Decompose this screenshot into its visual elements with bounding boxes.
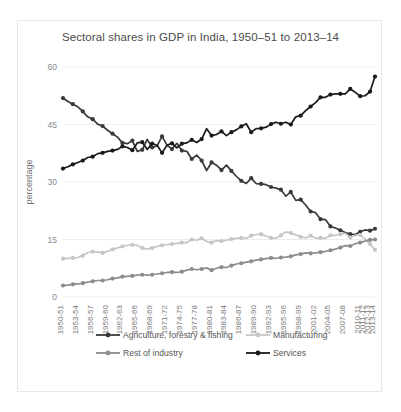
data-point	[140, 246, 144, 250]
data-point	[200, 158, 204, 162]
data-point	[61, 166, 65, 170]
y-tick-label: 60	[48, 62, 58, 72]
legend-swatch-dot	[106, 333, 111, 338]
data-point	[358, 94, 362, 98]
legend-swatch-dot	[256, 351, 261, 356]
data-point	[101, 151, 105, 155]
x-tick-label: 2007-08	[338, 304, 347, 334]
y-axis-title: percentage	[24, 159, 34, 204]
series-2	[61, 237, 377, 287]
legend-swatch-dot	[106, 351, 111, 356]
x-tick-label: 1959-60	[101, 304, 110, 334]
data-point	[81, 158, 85, 162]
data-point	[309, 209, 313, 213]
data-point	[299, 114, 303, 118]
data-point	[348, 87, 352, 91]
data-point	[71, 282, 75, 286]
data-point	[229, 263, 233, 267]
data-point	[219, 265, 223, 269]
data-point	[289, 254, 293, 258]
data-point	[209, 240, 213, 244]
data-point	[249, 234, 253, 238]
data-point	[259, 182, 263, 186]
data-point	[328, 248, 332, 252]
data-point	[130, 148, 134, 152]
data-point	[170, 242, 174, 246]
legend-swatch-dot	[256, 333, 261, 338]
data-point	[358, 233, 362, 237]
data-point	[338, 228, 342, 232]
data-point	[91, 155, 95, 159]
data-point	[219, 168, 223, 172]
data-point	[120, 244, 124, 248]
data-point	[259, 257, 263, 261]
data-point	[309, 104, 313, 108]
y-tick-label: 45	[48, 120, 58, 130]
x-tick-label: 1953-54	[71, 304, 80, 334]
data-point	[279, 255, 283, 259]
legend-label: Manufacturing	[273, 330, 328, 340]
data-point	[209, 160, 213, 164]
data-point	[249, 259, 253, 263]
data-point	[200, 267, 204, 271]
x-tick-label: 1986-87	[234, 304, 243, 334]
data-point	[71, 162, 75, 166]
x-tick-label: 1950-51	[56, 304, 65, 334]
data-point	[170, 270, 174, 274]
data-point	[71, 256, 75, 260]
data-point	[259, 126, 263, 130]
data-point	[269, 236, 273, 240]
data-point	[368, 238, 372, 242]
series-line	[63, 232, 375, 259]
data-point	[101, 278, 105, 282]
series-line	[63, 240, 375, 286]
data-point	[318, 250, 322, 254]
data-point	[229, 237, 233, 241]
data-point	[209, 134, 213, 138]
data-point	[110, 247, 114, 251]
data-point	[120, 275, 124, 279]
data-point	[120, 144, 124, 148]
data-point	[249, 130, 253, 134]
data-point	[289, 231, 293, 235]
data-point	[140, 140, 144, 144]
data-point	[140, 273, 144, 277]
data-point	[373, 74, 377, 78]
data-point	[373, 237, 377, 241]
chart-card: Sectoral shares in GDP in India, 1950–51…	[17, 20, 382, 392]
data-point	[249, 176, 253, 180]
data-point	[309, 251, 313, 255]
data-point	[110, 277, 114, 281]
data-point	[219, 129, 223, 133]
data-point	[239, 179, 243, 183]
data-point	[130, 243, 134, 247]
data-point	[368, 89, 372, 93]
legend-label: Services	[273, 348, 306, 358]
data-point	[160, 243, 164, 247]
series-0	[61, 96, 377, 236]
data-point	[368, 242, 372, 246]
data-point	[81, 281, 85, 285]
data-point	[91, 250, 95, 254]
x-tick-label: 1956-57	[86, 304, 95, 334]
data-point	[229, 130, 233, 134]
data-point	[338, 232, 342, 236]
y-tick-label: 0	[52, 292, 57, 302]
data-point	[200, 236, 204, 240]
data-point	[91, 279, 95, 283]
data-point	[373, 248, 377, 252]
data-point	[299, 235, 303, 239]
data-point	[289, 122, 293, 126]
data-point	[269, 185, 273, 189]
data-point	[160, 134, 164, 138]
data-point	[373, 227, 377, 231]
legend-item-1[interactable]: Manufacturing	[246, 330, 328, 340]
data-point	[150, 142, 154, 146]
legend-item-3[interactable]: Services	[246, 348, 306, 358]
data-point	[219, 239, 223, 243]
legend-label: Rest of industry	[123, 348, 183, 358]
legend-item-2[interactable]: Rest of industry	[96, 348, 183, 358]
data-point	[318, 217, 322, 221]
data-point	[239, 261, 243, 265]
data-point	[318, 236, 322, 240]
